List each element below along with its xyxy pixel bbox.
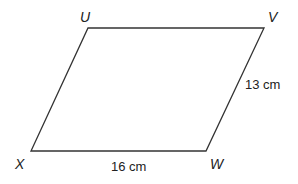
vertex-label-w: W <box>210 156 225 172</box>
side-label-wv: 13 cm <box>245 77 280 92</box>
parallelogram-diagram: U V W X 16 cm 13 cm <box>0 0 298 184</box>
side-label-xw: 16 cm <box>111 159 146 174</box>
parallelogram-uvwx <box>31 28 264 151</box>
vertex-label-x: X <box>14 156 25 172</box>
vertex-label-u: U <box>80 9 91 25</box>
vertex-label-v: V <box>268 9 279 25</box>
